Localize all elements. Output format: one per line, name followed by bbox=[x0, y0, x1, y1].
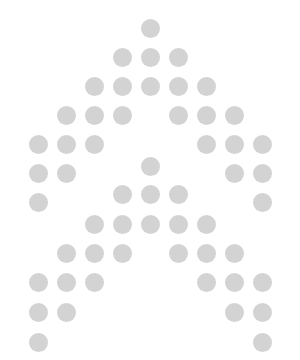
dot bbox=[113, 185, 132, 204]
dot bbox=[141, 215, 160, 234]
dot bbox=[29, 303, 48, 322]
dot bbox=[57, 244, 76, 263]
dot bbox=[253, 193, 272, 212]
dot bbox=[197, 77, 216, 96]
dot bbox=[85, 106, 104, 125]
dot bbox=[57, 273, 76, 292]
dot bbox=[85, 135, 104, 154]
dot bbox=[29, 135, 48, 154]
dot bbox=[169, 244, 188, 263]
dot bbox=[197, 244, 216, 263]
dot bbox=[113, 215, 132, 234]
dot bbox=[141, 157, 160, 176]
dot bbox=[225, 135, 244, 154]
dot bbox=[57, 164, 76, 183]
dot bbox=[197, 273, 216, 292]
dot bbox=[225, 164, 244, 183]
dot-pattern-canvas bbox=[0, 0, 300, 360]
dot bbox=[141, 48, 160, 67]
dot bbox=[141, 77, 160, 96]
dot bbox=[85, 244, 104, 263]
dot bbox=[57, 303, 76, 322]
dot bbox=[141, 185, 160, 204]
dot bbox=[169, 185, 188, 204]
dot bbox=[225, 273, 244, 292]
dot bbox=[253, 273, 272, 292]
dot bbox=[169, 48, 188, 67]
dot bbox=[85, 77, 104, 96]
dot bbox=[113, 244, 132, 263]
dot bbox=[253, 135, 272, 154]
dot bbox=[169, 77, 188, 96]
dot bbox=[85, 215, 104, 234]
dot bbox=[169, 215, 188, 234]
dot bbox=[85, 273, 104, 292]
dot bbox=[225, 303, 244, 322]
dot bbox=[57, 106, 76, 125]
dot bbox=[113, 106, 132, 125]
dot bbox=[253, 164, 272, 183]
dot bbox=[29, 193, 48, 212]
dot bbox=[113, 77, 132, 96]
dot bbox=[169, 106, 188, 125]
dot bbox=[57, 135, 76, 154]
dot bbox=[29, 333, 48, 352]
dot bbox=[253, 303, 272, 322]
dot bbox=[225, 244, 244, 263]
dot bbox=[113, 48, 132, 67]
dot bbox=[197, 215, 216, 234]
dot bbox=[29, 273, 48, 292]
dot bbox=[141, 19, 160, 38]
dot bbox=[197, 106, 216, 125]
dot bbox=[29, 164, 48, 183]
dot bbox=[225, 106, 244, 125]
dot bbox=[253, 333, 272, 352]
dot bbox=[197, 135, 216, 154]
